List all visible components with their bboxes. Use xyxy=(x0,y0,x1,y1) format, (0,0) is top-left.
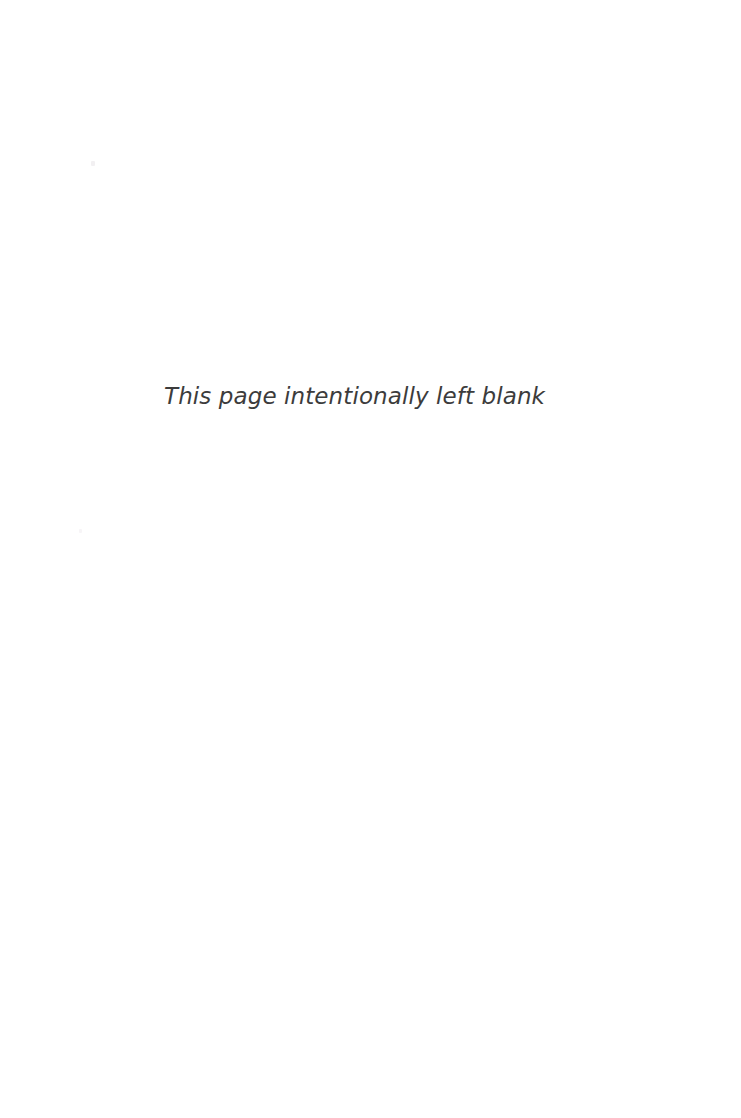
scan-speck-mid-left xyxy=(79,529,82,533)
document-page: This page intentionally left blank xyxy=(0,0,741,1118)
scan-speck-upper-left xyxy=(91,161,95,166)
blank-page-notice: This page intentionally left blank xyxy=(0,381,709,411)
